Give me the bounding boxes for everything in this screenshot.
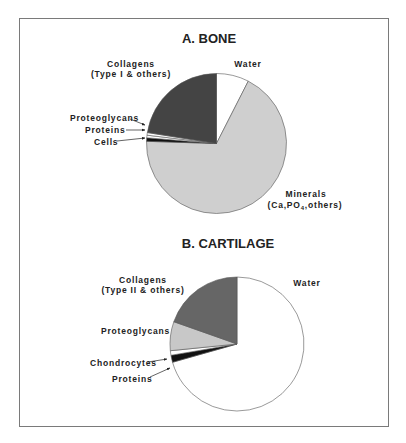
bone-label-minerals-sub: (Ca,PO4,others) — [268, 200, 343, 211]
bone-chart-title: A. BONE — [182, 31, 237, 46]
bone-arrow-cells — [117, 138, 145, 141]
cartilage-arrow-proteins — [150, 368, 170, 377]
bone-label-water: Water — [234, 59, 261, 69]
cartilage-label-water: Water — [293, 278, 320, 288]
bone-label-minerals: Minerals — [286, 189, 327, 199]
pie-slice-collagens — [147, 74, 216, 144]
cartilage-chart-title: B. CARTILAGE — [182, 236, 275, 251]
cartilage-label-collagens-sub: (Type II & others) — [101, 285, 184, 295]
bone-label-cells: Cells — [94, 137, 118, 147]
bone-pie-chart — [146, 74, 286, 214]
cartilage-label-proteoglycans: Proteoglycans — [101, 326, 170, 336]
bone-label-collagens-sub: (Type I & others) — [91, 69, 171, 79]
cartilage-pie-chart — [170, 277, 304, 411]
cartilage-label-chondrocytes: Chondrocytes — [90, 358, 157, 368]
bone-label-proteins: Proteins — [85, 125, 125, 135]
bone-label-collagens: Collagens — [107, 59, 155, 69]
cartilage-label-proteins: Proteins — [112, 374, 152, 384]
cartilage-label-collagens: Collagens — [119, 275, 167, 285]
bone-label-proteoglycans: Proteoglycans — [70, 113, 139, 123]
figure-canvas: A. BONE Collagens (Type I & others) Wate… — [0, 0, 406, 443]
